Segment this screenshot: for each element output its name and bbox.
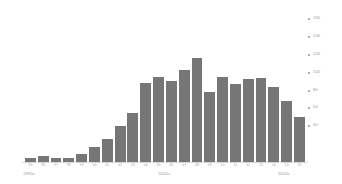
bar-slot	[24, 12, 37, 162]
bar-slot	[152, 12, 165, 162]
bar-slot	[139, 12, 152, 162]
x-axis-slot: 05	[152, 163, 165, 171]
bar-slot	[267, 12, 280, 162]
x-axis-tick-label: 08	[195, 163, 199, 168]
y-axis-tick-mark	[308, 18, 310, 20]
x-axis-slot: 02	[114, 163, 127, 171]
bar[interactable]	[102, 139, 113, 162]
x-axis-slot: 07	[178, 163, 191, 171]
x-axis-tick-label: 14	[272, 163, 276, 168]
bar[interactable]	[256, 78, 267, 162]
x-axis-tick-label: 01	[105, 163, 109, 168]
y-axis-tick-label: 100	[313, 69, 320, 74]
x-axis-tick-label: 06	[169, 163, 173, 168]
bar-slot	[75, 12, 88, 162]
bar-chart: 406080100120140160 959697989900010203040…	[0, 0, 342, 184]
x-axis-tick-label: 00	[92, 163, 96, 168]
bar-slot	[37, 12, 50, 162]
x-axis-tick-label: 03	[131, 163, 135, 168]
y-axis-tick-label: 60	[313, 104, 318, 109]
bar[interactable]	[217, 77, 228, 162]
x-axis-tick-label: 04	[144, 163, 148, 168]
y-axis-tick-label: 40	[313, 122, 318, 127]
decade-axis: 1990s2000s2010s	[0, 171, 342, 181]
x-axis-slot: 10	[216, 163, 229, 171]
bar[interactable]	[281, 101, 292, 162]
x-axis-slot: 97	[50, 163, 63, 171]
bar-slot	[293, 12, 306, 162]
bar-slot	[191, 12, 204, 162]
x-axis-slot: 04	[139, 163, 152, 171]
y-axis-tick-label: 160	[313, 15, 320, 20]
x-axis-tick-label: 99	[80, 163, 84, 168]
x-axis-tick-label: 05	[156, 163, 160, 168]
bar[interactable]	[89, 147, 100, 162]
decade-group-label: 2000s	[158, 171, 170, 177]
bar[interactable]	[192, 58, 203, 162]
bar-slot	[165, 12, 178, 162]
x-axis-slot: 95	[24, 163, 37, 171]
x-axis: 9596979899000102030405060708091011121314…	[24, 163, 306, 171]
y-axis-tick-mark	[308, 90, 310, 92]
bar[interactable]	[115, 126, 126, 162]
bar-slot	[242, 12, 255, 162]
x-axis-slot: 98	[62, 163, 75, 171]
y-axis-tick-label: 140	[313, 33, 320, 38]
bar-slot	[127, 12, 140, 162]
bar-slot	[62, 12, 75, 162]
y-axis-tick-mark	[308, 107, 310, 109]
x-axis-tick-label: 97	[54, 163, 58, 168]
y-axis-tick-mark	[308, 54, 310, 56]
bar[interactable]	[153, 77, 164, 162]
x-axis-slot: 03	[127, 163, 140, 171]
x-axis-slot: 96	[37, 163, 50, 171]
bar[interactable]	[230, 84, 241, 162]
x-axis-slot: 14	[267, 163, 280, 171]
bar[interactable]	[140, 83, 151, 162]
x-axis-tick-label: 15	[285, 163, 289, 168]
x-axis-slot: 01	[101, 163, 114, 171]
bar-slot	[203, 12, 216, 162]
x-axis-tick-label: 16	[297, 163, 301, 168]
x-axis-slot: 12	[242, 163, 255, 171]
plot-area	[24, 12, 306, 162]
y-axis-tick-mark	[308, 72, 310, 74]
x-axis-slot: 00	[88, 163, 101, 171]
x-axis-tick-label: 10	[221, 163, 225, 168]
x-axis-tick-label: 09	[208, 163, 212, 168]
y-axis-tick-label: 80	[313, 87, 318, 92]
x-axis-slot: 06	[165, 163, 178, 171]
x-axis-slot: 08	[191, 163, 204, 171]
x-axis-slot: 99	[75, 163, 88, 171]
bar-slot	[50, 12, 63, 162]
bar[interactable]	[268, 87, 279, 162]
x-axis-tick-label: 12	[246, 163, 250, 168]
bar[interactable]	[166, 81, 177, 162]
bar[interactable]	[204, 92, 215, 162]
bar-slot	[216, 12, 229, 162]
y-axis-tick-mark	[308, 125, 310, 127]
bar-slot	[255, 12, 268, 162]
bars-layer	[24, 12, 306, 162]
x-axis-slot: 15	[280, 163, 293, 171]
bar-slot	[229, 12, 242, 162]
bar-slot	[178, 12, 191, 162]
x-axis-tick-label: 11	[233, 163, 237, 168]
bar-slot	[101, 12, 114, 162]
decade-group-label: 2010s	[278, 171, 290, 177]
x-axis-slot: 13	[255, 163, 268, 171]
x-axis-slot: 16	[293, 163, 306, 171]
x-axis-tick-label: 98	[67, 163, 71, 168]
bar[interactable]	[179, 70, 190, 162]
x-axis-slot: 11	[229, 163, 242, 171]
bar[interactable]	[294, 117, 305, 162]
x-axis-tick-label: 13	[259, 163, 263, 168]
x-axis-tick-label: 07	[182, 163, 186, 168]
y-axis-tick-label: 120	[313, 51, 320, 56]
bar[interactable]	[243, 79, 254, 162]
bar[interactable]	[76, 154, 87, 162]
x-axis-tick-label: 95	[28, 163, 32, 168]
bar-slot	[88, 12, 101, 162]
bar-slot	[280, 12, 293, 162]
bar[interactable]	[127, 113, 138, 162]
